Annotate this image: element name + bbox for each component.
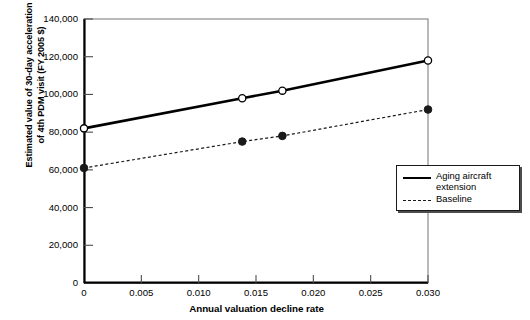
plot-area [0, 0, 530, 320]
x-tick-label: 0.005 [111, 288, 171, 298]
legend-solid-line-icon [403, 172, 431, 184]
x-tick-label: 0.010 [169, 288, 229, 298]
x-axis-tick-labels: 00.0050.0100.0150.0200.0250.030 [0, 288, 530, 302]
legend-dashed-line-icon [403, 195, 431, 207]
data-point-1-0 [80, 164, 88, 172]
x-tick-label: 0.025 [341, 288, 401, 298]
legend-item-label: Baseline [436, 194, 472, 205]
data-point-0-3 [424, 57, 431, 64]
x-axis-label: Annual valuation decline rate [84, 303, 429, 314]
legend-item-label: Aging aircraft extension [436, 171, 516, 192]
plot-frame [84, 19, 428, 283]
data-point-0-1 [239, 95, 246, 102]
data-point-1-2 [279, 132, 287, 140]
x-tick-label: 0.020 [283, 288, 343, 298]
chart-figure: Estimated value of 30-day acceleration o… [0, 0, 530, 320]
data-point-1-1 [238, 138, 246, 146]
chart-legend: Aging aircraft extensionBaseline [396, 165, 520, 211]
x-tick-label: 0 [54, 288, 114, 298]
data-point-1-3 [424, 106, 432, 114]
data-point-0-2 [279, 87, 286, 94]
x-tick-label: 0.030 [398, 288, 458, 298]
data-point-0-0 [80, 125, 87, 132]
legend-item-0[interactable]: Aging aircraft extension [403, 171, 519, 192]
x-tick-label: 0.015 [226, 288, 286, 298]
legend-item-1[interactable]: Baseline [403, 194, 519, 207]
